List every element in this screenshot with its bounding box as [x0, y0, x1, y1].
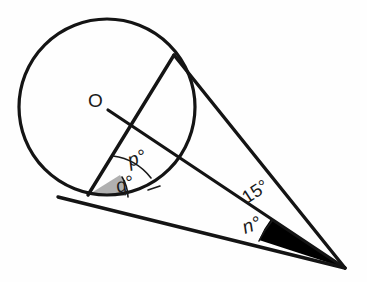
geometry-diagram: O p° q° 15° n° — [0, 0, 367, 282]
diagram-background — [0, 0, 367, 282]
geometry-canvas: O p° q° 15° n° — [0, 0, 367, 282]
centre-label: O — [88, 90, 103, 111]
